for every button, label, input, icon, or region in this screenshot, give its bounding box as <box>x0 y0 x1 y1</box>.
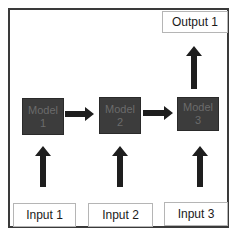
model-3-number: 3 <box>195 114 201 127</box>
arrow-right-icon <box>143 106 173 120</box>
input-1-label: Input 1 <box>26 208 63 222</box>
arrow-up-icon <box>35 146 51 187</box>
input-3-box: Input 3 <box>164 202 228 226</box>
model-2-box: Model 2 <box>99 97 141 134</box>
model-3-box: Model 3 <box>177 97 219 131</box>
model-3-label: Model <box>183 101 213 114</box>
arrow-up-icon <box>192 146 208 187</box>
output-1-label: Output 1 <box>172 15 218 29</box>
input-1-box: Input 1 <box>13 203 76 227</box>
model-1-box: Model 1 <box>22 98 64 135</box>
model-2-label: Model <box>105 103 135 116</box>
arrow-up-icon <box>186 46 202 89</box>
arrow-up-icon <box>112 146 128 187</box>
output-1-box: Output 1 <box>162 11 228 33</box>
arrow-right-icon <box>65 107 94 121</box>
input-2-box: Input 2 <box>88 203 153 227</box>
input-2-label: Input 2 <box>102 208 139 222</box>
model-1-label: Model <box>28 104 58 117</box>
input-3-label: Input 3 <box>178 207 215 221</box>
model-2-number: 2 <box>117 116 123 129</box>
model-1-number: 1 <box>40 117 46 130</box>
